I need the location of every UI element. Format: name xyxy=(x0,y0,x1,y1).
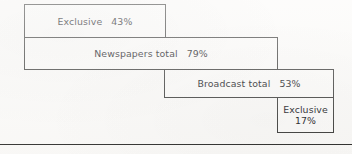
bar-exclusive-print-value: 43% xyxy=(111,16,132,27)
bar-newspapers-total: Newspapers total 79% xyxy=(24,37,278,70)
bar-exclusive-print-label: Exclusive xyxy=(58,16,103,27)
bar-newspapers-total-label: Newspapers total xyxy=(94,48,178,59)
bar-exclusive-broadcast-label: Exclusive xyxy=(283,104,328,115)
bar-exclusive-print: Exclusive 43% xyxy=(24,4,166,38)
footer-rule xyxy=(0,144,352,145)
overlap-bar-diagram: Exclusive 43% Newspapers total 79% Broad… xyxy=(0,0,352,154)
bar-exclusive-print-content: Exclusive 43% xyxy=(58,16,133,27)
bar-exclusive-broadcast-value: 17% xyxy=(295,115,316,126)
bar-exclusive-broadcast: Exclusive 17% xyxy=(277,97,334,133)
bar-broadcast-total-value: 53% xyxy=(279,78,300,89)
bar-broadcast-total-label: Broadcast total xyxy=(197,78,270,89)
bar-broadcast-total-content: Broadcast total 53% xyxy=(197,78,300,89)
bar-newspapers-total-content: Newspapers total 79% xyxy=(94,48,208,59)
bar-broadcast-total: Broadcast total 53% xyxy=(164,69,334,98)
bar-newspapers-total-value: 79% xyxy=(187,48,208,59)
